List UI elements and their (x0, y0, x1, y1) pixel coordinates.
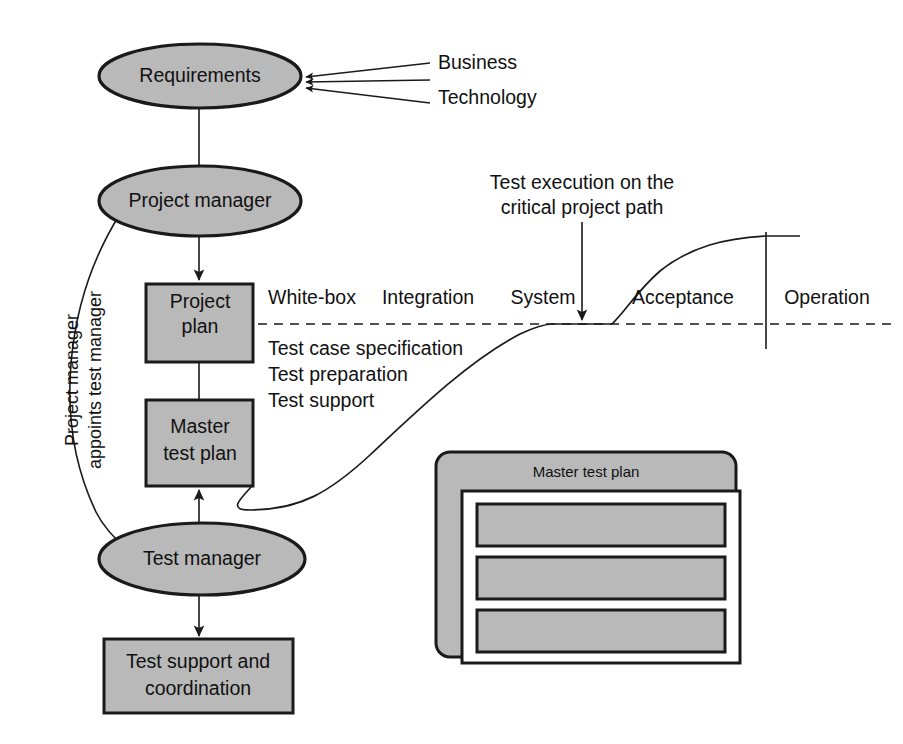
node-requirements-label: Requirements (139, 64, 261, 86)
input-line-middle (306, 80, 430, 82)
node-test-support-label-line2: coordination (145, 677, 251, 699)
node-project-plan-label-line2: plan (182, 315, 219, 337)
panel-bar-3 (477, 610, 725, 652)
appoints-label-line1: Project manager (62, 314, 82, 446)
timeline-phase-integration: Integration (382, 286, 474, 308)
node-test-manager-label: Test manager (143, 547, 262, 569)
master-test-plan-panel[interactable]: Master test plan (436, 452, 740, 663)
acceptance-ramp-curve (612, 236, 800, 324)
node-project-plan-label-line1: Project (170, 290, 231, 312)
panel-bar-2 (477, 557, 725, 599)
activity-test-preparation: Test preparation (268, 363, 408, 385)
input-label-technology: Technology (438, 86, 537, 108)
timeline-phase-operation: Operation (784, 286, 870, 308)
diagram-canvas: Requirements Project manager Project pla… (0, 0, 903, 744)
activity-test-case-specification: Test case specification (268, 337, 463, 359)
input-line-technology (306, 88, 430, 103)
panel-bar-1 (477, 504, 725, 546)
diagram-svg: Requirements Project manager Project pla… (0, 0, 903, 744)
callout-line2: critical project path (501, 196, 664, 218)
node-master-test-plan-label-line1: Master (170, 415, 230, 437)
timeline-phase-system: System (510, 286, 575, 308)
node-test-support-label-line1: Test support and (126, 650, 270, 672)
panel-title: Master test plan (533, 463, 640, 480)
activity-test-support: Test support (268, 389, 375, 411)
timeline-phase-acceptance: Acceptance (632, 286, 734, 308)
appoints-label: Project manager appoints test manager (62, 291, 105, 469)
node-master-test-plan-label-line2: test plan (163, 442, 237, 464)
callout-line1: Test execution on the (490, 171, 674, 193)
timeline-phase-white-box: White-box (268, 286, 356, 308)
appoints-label-line2: appoints test manager (85, 291, 105, 469)
input-label-business: Business (438, 51, 517, 73)
node-project-manager-label: Project manager (128, 189, 272, 211)
input-line-business (306, 63, 430, 77)
